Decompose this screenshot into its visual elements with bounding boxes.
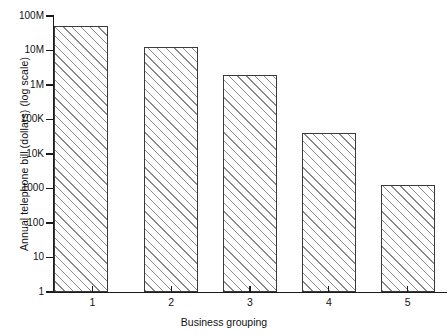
y-axis-tick [46, 84, 54, 85]
y-axis-tick [46, 119, 54, 120]
x-axis-tick [407, 286, 408, 293]
x-axis-title: Business grouping [0, 316, 448, 328]
y-axis-tick-label: 1 [0, 286, 44, 297]
x-axis-tick [171, 286, 172, 293]
y-axis-tick [46, 257, 54, 258]
y-axis-tick-label: 1000 [0, 182, 44, 193]
bar-4 [302, 133, 356, 292]
y-axis-tick [46, 50, 54, 51]
bar-chart: Annual telephone bill (dollars) (log sca… [0, 0, 448, 334]
x-axis-tick-label: 2 [151, 296, 191, 308]
x-axis-tick-label: 1 [72, 296, 112, 308]
y-axis-tick-label: 10 [0, 251, 44, 262]
y-axis-tick [46, 222, 54, 223]
x-axis-tick-label: 5 [388, 296, 428, 308]
x-axis-tick [92, 286, 93, 293]
y-axis-tick-label: 100 [0, 217, 44, 228]
y-axis-tick-label: 10K [0, 148, 44, 159]
x-axis-tick [249, 286, 250, 293]
y-axis-tick-label: 10M [0, 44, 44, 55]
y-axis-tick-label: 100M [0, 10, 44, 21]
y-axis-tick [46, 188, 54, 189]
bar-3 [223, 75, 277, 292]
y-axis-tick-label: 100K [0, 113, 44, 124]
x-axis-tick-label: 3 [230, 296, 270, 308]
bar-1 [54, 26, 108, 292]
bar-5 [381, 185, 435, 292]
y-axis-tick [46, 291, 54, 292]
bar-2 [144, 47, 198, 292]
y-axis-tick [46, 153, 54, 154]
y-axis-tick [46, 15, 54, 16]
x-axis-tick-label: 4 [309, 296, 349, 308]
x-axis-tick [328, 286, 329, 293]
y-axis-tick-label: 1M [0, 79, 44, 90]
